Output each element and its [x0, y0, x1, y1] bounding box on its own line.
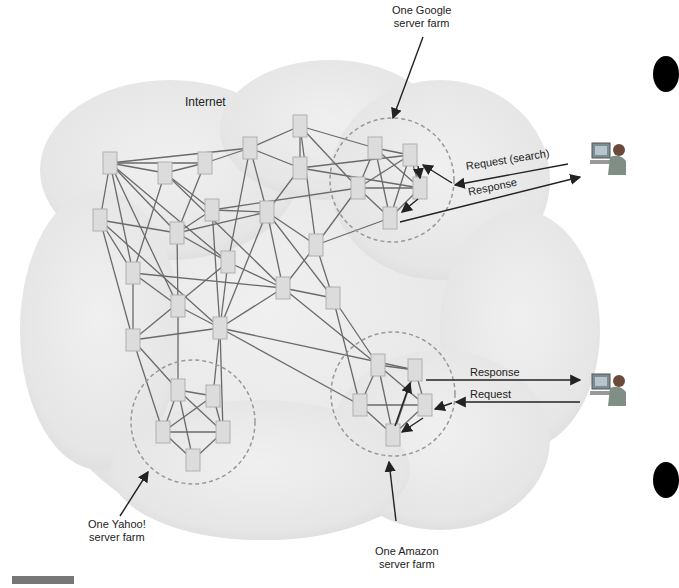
router-node [213, 317, 227, 339]
response-bottom-label: Response [470, 366, 520, 379]
router-node [293, 115, 307, 137]
router-node [171, 379, 185, 401]
router-node [171, 295, 185, 317]
internet-label: Internet [185, 96, 226, 109]
router-node [413, 177, 427, 199]
router-node [221, 251, 235, 273]
page-edge-marker-top [653, 56, 679, 92]
router-node [383, 207, 397, 229]
router-node [186, 449, 200, 471]
page-edge-marker-bottom [653, 462, 679, 498]
router-node [156, 421, 170, 443]
router-node [293, 157, 307, 179]
router-node [403, 144, 417, 166]
router-node [351, 177, 365, 199]
request-bottom-label: Request [470, 388, 511, 401]
router-node [198, 152, 212, 174]
router-node [126, 262, 140, 284]
router-node [158, 162, 172, 184]
user-bottom [590, 374, 626, 406]
router-node [243, 137, 257, 159]
router-node [371, 354, 385, 376]
router-node [418, 394, 432, 416]
router-node [276, 277, 290, 299]
user-top [590, 143, 626, 175]
router-node [205, 199, 219, 221]
router-node [386, 424, 400, 446]
router-node [408, 359, 422, 381]
amazon-farm-label: One Amazon server farm [375, 545, 439, 571]
router-node [309, 234, 323, 256]
router-node [368, 137, 382, 159]
router-node [216, 421, 230, 443]
router-node [353, 394, 367, 416]
router-node [126, 329, 140, 351]
router-node [170, 222, 184, 244]
google-farm-label: One Google server farm [392, 4, 451, 30]
yahoo-farm-label: One Yahoo! server farm [88, 518, 146, 544]
router-node [206, 385, 220, 407]
figure-caption-bar [12, 576, 74, 584]
router-node [326, 287, 340, 309]
router-node [93, 209, 107, 231]
router-node [103, 152, 117, 174]
router-node [260, 201, 274, 223]
internet-cloud [20, 60, 600, 540]
